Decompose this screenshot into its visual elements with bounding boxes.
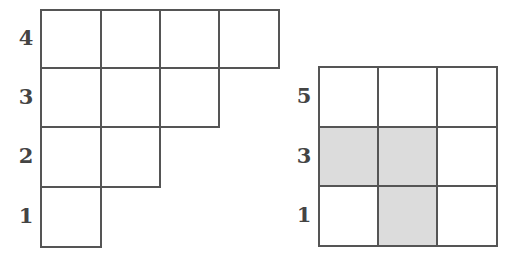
shaded-cell: [377, 126, 438, 187]
row-label: 1: [16, 204, 36, 228]
grid-cell: [40, 67, 102, 128]
grid-cell: [40, 186, 102, 248]
shaded-cell: [318, 126, 379, 187]
grid-cell: [159, 67, 220, 128]
row-label: 3: [294, 144, 314, 168]
grid-cell: [159, 9, 220, 69]
row-label: 1: [294, 203, 314, 227]
row-label: 3: [16, 85, 36, 109]
grid-cell: [377, 66, 438, 128]
grid-cell: [100, 9, 161, 69]
grid-cell: [318, 66, 379, 128]
grid-cell: [436, 66, 498, 128]
row-label: 4: [16, 26, 36, 50]
grid-cell: [40, 126, 102, 188]
grid-cell: [100, 67, 161, 128]
shaded-cell: [377, 185, 438, 247]
grid-cell: [218, 9, 280, 69]
grid-cell: [318, 185, 379, 247]
grid-cell: [40, 9, 102, 69]
grid-cell: [436, 185, 498, 247]
row-label: 2: [16, 144, 36, 168]
row-label: 5: [294, 84, 314, 108]
grid-cell: [100, 126, 161, 188]
grid-cell: [436, 126, 498, 187]
